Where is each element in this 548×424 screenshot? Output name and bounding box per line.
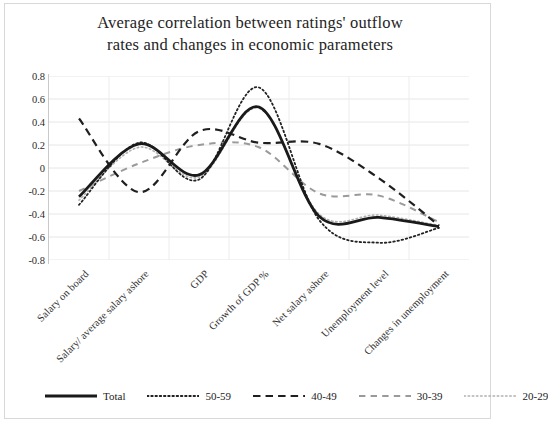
legend-label: 40-49 xyxy=(311,390,337,402)
x-tick-label: Growth of GDP % xyxy=(207,268,271,332)
legend-key-icon xyxy=(147,392,199,400)
x-tick-label: Unemployment level xyxy=(319,268,391,340)
x-tick-label: Salary on board xyxy=(35,268,91,324)
chart-container: Average correlation between ratings' out… xyxy=(4,3,491,419)
x-tick-label: GDP xyxy=(188,268,211,291)
y-axis-tick-labels: 0.80.60.40.20-0.2-0.4-0.6-0.8 xyxy=(9,76,45,260)
legend-key-icon xyxy=(45,392,97,400)
x-tick-label: Changes in unemployment xyxy=(362,268,451,357)
chart-legend: Total50-5940-4930-3920-29 xyxy=(45,386,465,406)
y-tick-label: 0 xyxy=(11,163,45,174)
legend-item[interactable]: 50-59 xyxy=(147,390,231,402)
legend-key-icon xyxy=(359,392,411,400)
y-tick-label: 0.8 xyxy=(11,71,45,82)
legend-label: 20-29 xyxy=(522,390,548,402)
legend-item[interactable]: 40-49 xyxy=(253,390,337,402)
y-tick-label: 0.6 xyxy=(11,94,45,105)
series-line xyxy=(79,119,439,226)
chart-title: Average correlation between ratings' out… xyxy=(45,12,455,57)
series-canvas xyxy=(49,76,469,260)
x-tick-label: Net salary ashore xyxy=(270,268,331,329)
y-tick-label: -0.4 xyxy=(11,209,45,220)
x-tick-label: Salary/ average salary ashore xyxy=(54,268,151,365)
plot-area xyxy=(49,76,469,260)
chart-title-line-1: Average correlation between ratings' out… xyxy=(45,12,455,34)
legend-item[interactable]: 20-29 xyxy=(464,390,548,402)
legend-label: 50-59 xyxy=(205,390,231,402)
legend-key-icon xyxy=(253,392,305,400)
y-tick-label: -0.8 xyxy=(11,255,45,266)
legend-key-icon xyxy=(464,392,516,400)
legend-item[interactable]: 30-39 xyxy=(359,390,443,402)
y-tick-label: -0.6 xyxy=(11,232,45,243)
y-tick-label: 0.2 xyxy=(11,140,45,151)
legend-item[interactable]: Total xyxy=(45,390,125,402)
legend-label: 30-39 xyxy=(417,390,443,402)
y-tick-label: -0.2 xyxy=(11,186,45,197)
chart-title-line-2: rates and changes in economic parameters xyxy=(45,34,455,56)
y-tick-label: 0.4 xyxy=(11,117,45,128)
legend-label: Total xyxy=(103,390,125,402)
